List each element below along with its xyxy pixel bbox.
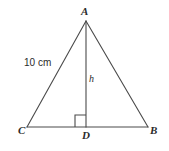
right-angle-marker-icon	[75, 115, 86, 127]
side-length-label: 10 cm	[24, 58, 51, 68]
vertex-label-a: A	[81, 6, 88, 17]
vertex-label-c: C	[18, 125, 25, 136]
height-label: h	[89, 74, 94, 84]
vertex-label-b: B	[150, 125, 157, 136]
geometry-figure: A B C D 10 cm h	[0, 0, 169, 151]
vertex-label-d: D	[82, 130, 90, 141]
segment-CA	[27, 21, 86, 127]
segment-AB	[86, 21, 148, 127]
